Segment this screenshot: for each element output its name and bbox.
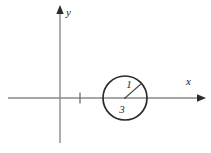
math-figure-canvas: y x 1 3 <box>0 0 211 153</box>
y-axis-arrow-icon <box>56 5 63 14</box>
radius-length-label: 1 <box>126 78 132 90</box>
x-axis-label: x <box>185 75 191 87</box>
x-axis-arrow-icon <box>197 94 206 102</box>
center-distance-label: 3 <box>118 103 125 115</box>
y-axis-label: y <box>65 6 71 18</box>
coordinate-plane-diagram: y x 1 3 <box>0 0 211 153</box>
